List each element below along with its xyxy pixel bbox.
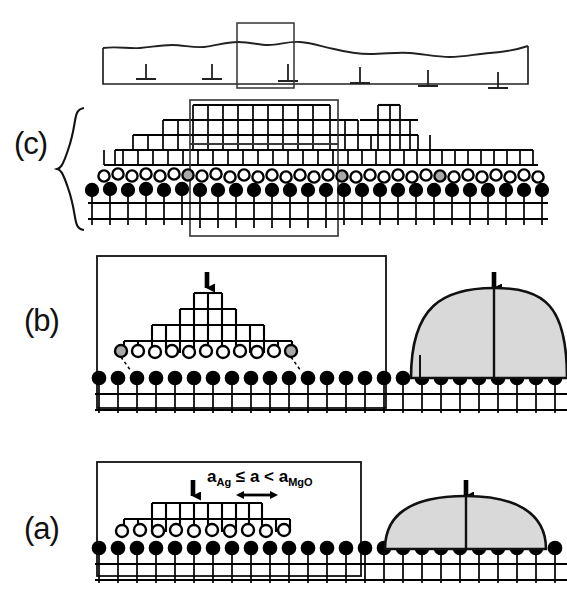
- inset-box-film: [237, 23, 294, 88]
- dislocation-icon: [350, 67, 370, 83]
- terrace-lattice-c: [104, 105, 538, 165]
- substrate-atom-row-c: [86, 183, 549, 197]
- pyramid-lattice-b: [124, 293, 292, 353]
- panel-b-group: [92, 256, 567, 413]
- panel-a-group: [92, 462, 567, 583]
- dislocation-icon: [202, 64, 222, 79]
- dome-shape-b: [411, 288, 567, 378]
- film-surface-wave: [103, 42, 528, 57]
- figure-root: (c) (b) (a) aAg ≤ a < aMgO: [0, 0, 567, 605]
- dislocation-icon: [278, 64, 298, 81]
- panel-c-group: [57, 23, 548, 236]
- adatom-row-b: [115, 345, 301, 371]
- dislocation-icon: [488, 72, 508, 88]
- dislocation-icon: [136, 64, 156, 79]
- panel-b-frame: [97, 256, 386, 408]
- inset-box-crystal-upper: [190, 100, 338, 144]
- panel-c-brace: [57, 108, 84, 230]
- film-slab-c: [103, 42, 528, 84]
- substrate-lattice-c: [88, 190, 548, 228]
- adatom-row-a: [116, 524, 290, 537]
- diagram-canvas: [0, 0, 567, 605]
- dashed-bond: [121, 357, 301, 371]
- adatom-row-c: [98, 168, 543, 182]
